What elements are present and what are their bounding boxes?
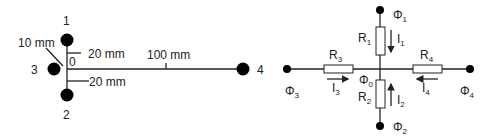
label-i2: I2 bbox=[397, 93, 405, 109]
electrode-4-label: 4 bbox=[257, 63, 264, 77]
left-dimension-label: 10 mm bbox=[18, 36, 55, 50]
origin-label: 0 bbox=[69, 55, 76, 69]
label-i3: I3 bbox=[332, 81, 340, 97]
label-phi1: Φ1 bbox=[393, 8, 408, 24]
node-phi4 bbox=[466, 65, 474, 73]
node-phi1 bbox=[376, 6, 384, 14]
electrode-1-label: 1 bbox=[63, 14, 70, 28]
label-phi4: Φ4 bbox=[460, 84, 475, 100]
label-r1: R1 bbox=[358, 31, 372, 47]
label-r3: R3 bbox=[329, 48, 343, 64]
electrode-3-label: 3 bbox=[31, 63, 38, 77]
diagram-canvas: 1 2 3 4 0 20 mm 20 mm 10 mm 100 mm Φ1 Φ2… bbox=[0, 0, 493, 138]
equivalent-circuit: Φ1 Φ2 Φ3 Φ4 Φ0 R1 R2 R3 R4 I1 I2 I3 I4 bbox=[283, 6, 475, 136]
upper-dimension-label: 20 mm bbox=[88, 47, 125, 61]
electrode-4 bbox=[237, 63, 250, 76]
resistor-r2 bbox=[376, 80, 385, 108]
electrode-1 bbox=[61, 34, 74, 47]
label-r4: R4 bbox=[420, 48, 434, 64]
lower-dimension-label: 20 mm bbox=[89, 75, 126, 89]
electrode-2 bbox=[61, 89, 74, 102]
label-i4: I4 bbox=[422, 81, 430, 97]
electrode-layout: 1 2 3 4 0 20 mm 20 mm 10 mm 100 mm bbox=[18, 14, 264, 122]
resistor-r4 bbox=[413, 65, 442, 73]
electrode-2-label: 2 bbox=[63, 108, 70, 122]
resistor-r3 bbox=[324, 65, 353, 73]
electrode-3 bbox=[48, 63, 61, 76]
label-phi3: Φ3 bbox=[285, 84, 300, 100]
label-phi0: Φ0 bbox=[359, 73, 374, 89]
resistor-r1 bbox=[376, 27, 385, 55]
node-phi3 bbox=[283, 65, 291, 73]
label-phi2: Φ2 bbox=[393, 120, 408, 136]
label-r2: R2 bbox=[358, 90, 372, 106]
node-phi2 bbox=[376, 122, 384, 130]
right-dimension-label: 100 mm bbox=[147, 48, 190, 62]
label-i1: I1 bbox=[397, 32, 405, 48]
